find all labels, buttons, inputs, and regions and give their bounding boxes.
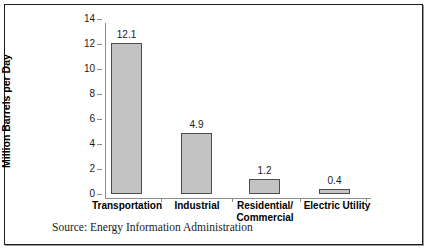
y-tick-label-wrap: 12 — [49, 39, 95, 49]
bar-value-label: 4.9 — [161, 119, 232, 130]
y-tick-mark — [97, 94, 102, 95]
y-tick-mark — [97, 194, 102, 195]
y-tick-label: 6 — [51, 114, 95, 124]
bar[interactable] — [181, 133, 212, 194]
y-tick-label: 2 — [51, 164, 95, 174]
x-category-label-line: Electric Utility — [298, 200, 376, 212]
y-axis-line — [105, 23, 106, 199]
y-tick-label-wrap: 14 — [49, 14, 95, 24]
y-axis-title: Million Barrels per Day — [0, 51, 13, 171]
y-tick-mark — [97, 144, 102, 145]
bar-value-label: 12.1 — [91, 29, 162, 40]
y-tick-label-wrap: 2 — [49, 164, 95, 174]
y-tick-mark — [97, 119, 102, 120]
y-tick-label-wrap: 10 — [49, 64, 95, 74]
x-category-label: Industrial — [161, 200, 233, 212]
y-tick-label: 0 — [51, 189, 95, 199]
x-category-label: Electric Utility — [298, 200, 376, 212]
bar[interactable] — [249, 179, 280, 194]
y-tick-mark — [97, 169, 102, 170]
x-category-label-line: Transportation — [91, 200, 163, 212]
bar-value-label: 1.2 — [229, 165, 300, 176]
y-tick-label: 8 — [51, 89, 95, 99]
source-note: Source: Energy Information Administratio… — [52, 221, 253, 233]
y-tick-label: 10 — [51, 64, 95, 74]
y-tick-label-wrap: 6 — [49, 114, 95, 124]
x-category-label-line: Residential/ — [226, 200, 304, 212]
bar[interactable] — [319, 189, 350, 194]
y-tick-mark — [97, 19, 102, 20]
x-axis-line — [105, 198, 371, 199]
figure-border: Million Barrels per Day 02468101214 12.1… — [4, 4, 423, 245]
figure-container: Million Barrels per Day 02468101214 12.1… — [0, 0, 428, 250]
y-tick-label-wrap: 0 — [49, 189, 95, 199]
y-tick-label: 4 — [51, 139, 95, 149]
x-category-label: Transportation — [91, 200, 163, 212]
y-tick-label-wrap: 4 — [49, 139, 95, 149]
y-tick-label: 14 — [51, 14, 95, 24]
y-tick-mark — [97, 44, 102, 45]
bar[interactable] — [111, 43, 142, 194]
y-tick-mark — [97, 69, 102, 70]
y-tick-label-wrap: 8 — [49, 89, 95, 99]
y-tick-label: 12 — [51, 39, 95, 49]
bar-value-label: 0.4 — [299, 175, 370, 186]
x-category-label-line: Industrial — [161, 200, 233, 212]
